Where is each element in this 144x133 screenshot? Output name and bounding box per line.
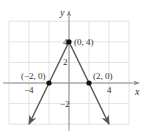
point-marker: [46, 80, 51, 85]
y-axis-label: y: [59, 7, 65, 18]
point-label: (0, 4): [74, 37, 94, 47]
y-tick-label: 2: [63, 57, 68, 67]
point-marker: [86, 80, 91, 85]
y-tick-label: −2: [60, 99, 70, 109]
x-tick-label: 4: [107, 85, 112, 95]
axes: x y: [3, 7, 140, 131]
point-label: (−2, 0): [21, 71, 46, 81]
point-marker: [66, 39, 71, 44]
point-label: (2, 0): [93, 71, 113, 81]
function-graph: x y −4442−2 (0, 4)(−2, 0)(2, 0): [0, 0, 144, 133]
x-tick-label: −4: [24, 85, 34, 95]
x-axis-label: x: [134, 86, 140, 97]
